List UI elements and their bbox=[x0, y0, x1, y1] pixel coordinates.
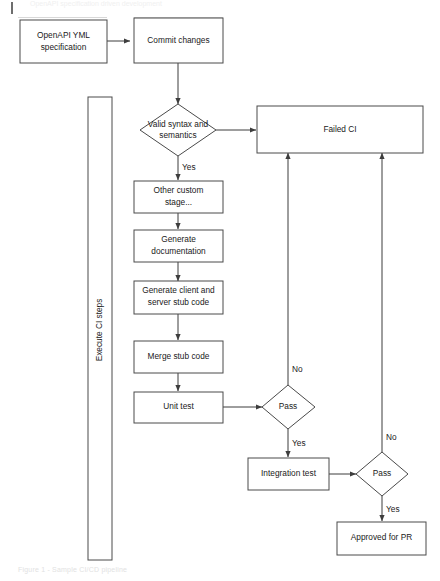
node-valid-syntax[interactable]: Valid syntax and semantics bbox=[140, 104, 216, 156]
node-failed-ci-label: Failed CI bbox=[323, 124, 356, 134]
edge-label-valid-yes: Yes bbox=[182, 162, 196, 172]
figure-caption: Figure 1 - Sample CI/CD pipeline bbox=[18, 566, 127, 573]
node-unit-test[interactable]: Unit test bbox=[134, 392, 223, 423]
node-integration-test[interactable]: Integration test bbox=[248, 458, 329, 490]
lane-execute-ci-steps: Execute CI steps bbox=[88, 97, 112, 560]
node-pass-integration[interactable]: Pass bbox=[356, 452, 408, 496]
edge-label-integration-no: No bbox=[386, 432, 397, 442]
edge-label-unit-yes: Yes bbox=[292, 438, 306, 448]
node-generate-documentation-label-line1: Generate bbox=[161, 234, 196, 244]
node-commit-changes[interactable]: Commit changes bbox=[134, 18, 223, 63]
node-pass-integration-label: Pass bbox=[373, 468, 391, 478]
flowchart-canvas: Execute CI steps bbox=[0, 0, 440, 581]
lane-label-execute-ci-steps: Execute CI steps bbox=[94, 299, 104, 362]
edge-label-integration-yes: Yes bbox=[386, 504, 400, 514]
node-valid-syntax-label-line2: semantics bbox=[159, 130, 196, 140]
node-approved-for-pr[interactable]: Approved for PR bbox=[337, 522, 426, 555]
node-pass-unit-label: Pass bbox=[279, 401, 297, 411]
node-unit-test-label: Unit test bbox=[163, 401, 194, 411]
node-generate-stubs[interactable]: Generate client and server stub code bbox=[134, 281, 223, 314]
node-other-custom-stage-label-line2: stage... bbox=[165, 197, 192, 207]
node-pass-unit[interactable]: Pass bbox=[262, 385, 315, 429]
node-generate-documentation-label-line2: documentation bbox=[151, 246, 206, 256]
node-other-custom-stage[interactable]: Other custom stage... bbox=[134, 181, 223, 213]
node-commit-changes-label: Commit changes bbox=[147, 35, 209, 45]
node-failed-ci[interactable]: Failed CI bbox=[257, 106, 423, 153]
node-generate-stubs-label-line1: Generate client and bbox=[142, 285, 215, 295]
node-openapi-spec-label-line2: specification bbox=[41, 42, 87, 52]
node-approved-for-pr-label: Approved for PR bbox=[351, 532, 412, 542]
flowchart-page: OpenAPI specification driven development… bbox=[0, 0, 440, 581]
node-valid-syntax-label-line1: Valid syntax and bbox=[148, 119, 209, 129]
node-generate-documentation[interactable]: Generate documentation bbox=[134, 230, 223, 262]
node-merge-stub-code[interactable]: Merge stub code bbox=[134, 341, 223, 373]
node-generate-stubs-label-line2: server stub code bbox=[148, 297, 210, 307]
node-openapi-spec-label-line1: OpenAPI YML bbox=[37, 30, 90, 40]
node-integration-test-label: Integration test bbox=[261, 468, 317, 478]
node-openapi-spec[interactable]: OpenAPI YML specification bbox=[20, 20, 107, 63]
edge-label-unit-no: No bbox=[292, 364, 303, 374]
node-merge-stub-code-label: Merge stub code bbox=[148, 351, 210, 361]
node-other-custom-stage-label-line1: Other custom bbox=[154, 185, 204, 195]
